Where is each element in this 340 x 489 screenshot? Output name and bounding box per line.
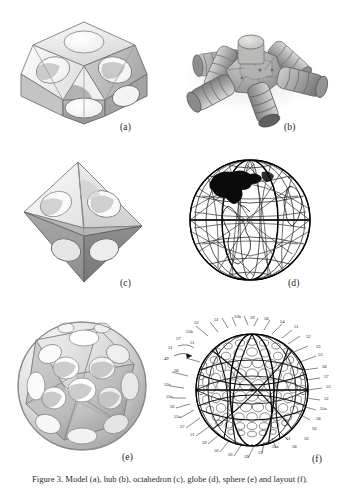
figure-caption: Figure 3. Model (a), hub (b), octahedron… [0, 474, 340, 485]
ref-top-4: 50 [264, 316, 269, 321]
ref-tl-6: 51 [168, 345, 173, 350]
geodesic-sphere-patent-diagram [166, 312, 338, 464]
panel-d: (d) [176, 150, 328, 290]
ref-l-3: 53a [164, 382, 171, 387]
polyhedral-sphere-shell [6, 312, 162, 462]
ref-top-6: 51 [294, 324, 299, 329]
ref-b-6: 51 [286, 436, 291, 441]
panel-a-label: (a) [120, 122, 131, 132]
ref-tl-5: 57 [176, 336, 181, 341]
assembly-pointer-arrow [174, 354, 192, 359]
ref-l-4: 53a [166, 394, 173, 399]
ref-top-3: 59 [250, 315, 255, 320]
ref-top-5: 54 [280, 319, 285, 324]
ref-l-0: 51 [190, 340, 195, 345]
panel-b: (b) [172, 4, 332, 134]
hub-cap [238, 35, 264, 64]
ref-l-2: 50 [174, 368, 179, 373]
panel-a: (a) [8, 4, 160, 134]
ref-r-7: 55a [320, 406, 327, 411]
ref-b-3: 59 [244, 454, 249, 459]
ref-l-8: 51 [190, 432, 195, 437]
geodesic-globe-map [176, 150, 328, 290]
ref-b-1: 56 [214, 448, 219, 453]
octahedral-shell-model [8, 150, 160, 290]
ref-top-0: 53 [194, 320, 199, 325]
panel-f-label: (f) [312, 454, 322, 464]
ref-lr-2: 56 [312, 426, 317, 431]
panel-f: 49 53 52 55b 59 50 54 51 52 53 57 55b 51… [166, 312, 338, 464]
ref-top-7: 52 [306, 334, 311, 339]
ref-r-2: 53 [318, 352, 323, 357]
ref-r-8: 58 [316, 416, 321, 421]
panel-e-label: (e) [122, 452, 133, 462]
panel-c: (c) [8, 150, 160, 290]
ref-r-6: 52 [324, 396, 329, 401]
ref-b-5: 55a [272, 444, 279, 449]
ref-r-3: 50 [322, 364, 327, 369]
cuboctahedral-shell-model [8, 4, 160, 134]
ref-r-5: 53 [326, 384, 331, 389]
ref-top-1: 52 [214, 317, 219, 322]
ref-l-6: 55a [174, 414, 181, 419]
figure-plate: (a) [0, 0, 340, 489]
ref-r-4: 57 [324, 374, 329, 379]
ref-lr-3: 56 [304, 436, 309, 441]
ref-top-8: 53 [316, 344, 321, 349]
ref-tl-4: 55b [186, 329, 193, 334]
panel-c-label: (c) [120, 278, 131, 288]
panel-d-label: (d) [288, 278, 300, 288]
ref-b-2: 56 [228, 452, 233, 457]
ref-lr-4: 50 [292, 444, 297, 449]
ref-l-5: 56 [170, 404, 175, 409]
panel-e: (e) [6, 312, 162, 462]
ref-b-4: 57 [258, 450, 263, 455]
panel-b-label: (b) [284, 122, 296, 132]
ref-top-2: 55b [234, 314, 241, 319]
six-arm-hub-connector [172, 4, 332, 134]
ref-b-0: 59 [202, 440, 207, 445]
ref-49: 49 [164, 356, 169, 361]
ref-l-7: 57 [180, 424, 185, 429]
